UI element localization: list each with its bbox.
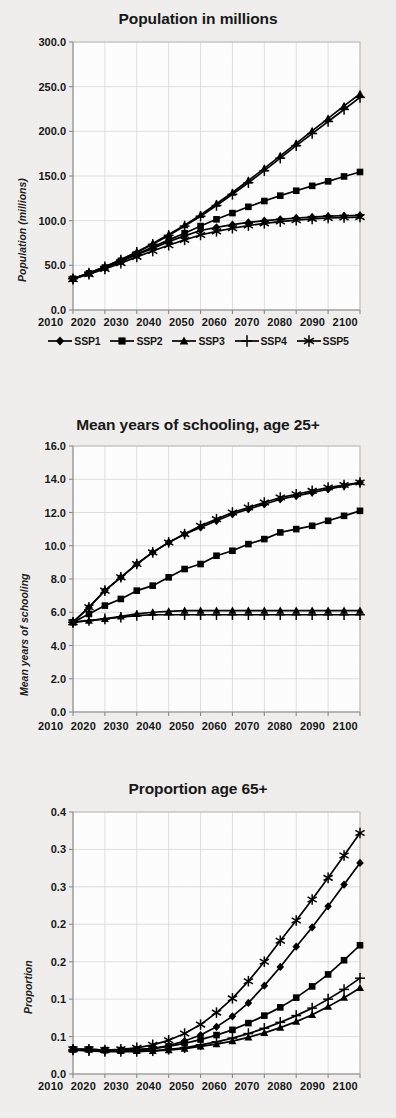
x-axis-ticklabel: 2070 bbox=[234, 1080, 259, 1092]
svg-text:0.1: 0.1 bbox=[51, 1031, 66, 1043]
svg-text:100.0: 100.0 bbox=[38, 215, 66, 227]
legend-label: SSP3 bbox=[198, 335, 224, 347]
plus-marker-icon bbox=[234, 334, 260, 348]
x-axis-ticklabels-population: 2010202020302040205020602070208020902100 bbox=[38, 316, 358, 328]
chart-title-proportion: Proportion age 65+ bbox=[0, 760, 396, 798]
y-axis-label-population: Population (millions) bbox=[16, 178, 28, 282]
svg-text:8.0: 8.0 bbox=[51, 573, 66, 585]
square-marker-icon bbox=[109, 334, 135, 348]
svg-text:0.2: 0.2 bbox=[51, 918, 66, 930]
svg-text:0.3: 0.3 bbox=[51, 843, 66, 855]
x-axis-ticklabel: 2100 bbox=[333, 316, 358, 328]
x-axis-ticklabel: 2010 bbox=[38, 720, 63, 732]
x-axis-ticklabel: 2070 bbox=[234, 720, 259, 732]
x-axis-ticklabel: 2080 bbox=[267, 316, 292, 328]
legend-label: SSP5 bbox=[323, 335, 349, 347]
x-axis-ticklabel: 2100 bbox=[333, 1080, 358, 1092]
x-axis-ticklabel: 2020 bbox=[71, 316, 96, 328]
svg-text:14.0: 14.0 bbox=[45, 473, 66, 485]
x-axis-ticklabel: 2100 bbox=[333, 720, 358, 732]
legend-label: SSP1 bbox=[74, 335, 100, 347]
x-axis-ticklabels-schooling: 2010202020302040205020602070208020902100 bbox=[38, 720, 358, 732]
plot-area-proportion: Proportion 0.00.10.10.20.20.30.30.4 2010… bbox=[0, 798, 396, 1108]
x-axis-ticklabel: 2020 bbox=[71, 720, 96, 732]
legend: SSP1SSP2SSP3SSP4SSP5 bbox=[0, 330, 396, 352]
x-axis-ticklabel: 2090 bbox=[300, 1080, 325, 1092]
x-axis-ticklabel: 2030 bbox=[103, 1080, 128, 1092]
x-axis-ticklabel: 2040 bbox=[136, 720, 161, 732]
chart-panel-schooling: Mean years of schooling, age 25+ Mean ye… bbox=[0, 402, 396, 760]
chart-title-schooling: Mean years of schooling, age 25+ bbox=[0, 402, 396, 434]
legend-item-ssp4[interactable]: SSP4 bbox=[234, 334, 287, 348]
chart-title-population: Population in millions bbox=[0, 0, 396, 28]
x-axis-ticklabel: 2050 bbox=[169, 316, 194, 328]
triangle-marker-icon bbox=[171, 334, 197, 348]
plot-area-population: Population (millions) 0.050.0100.0150.02… bbox=[0, 28, 396, 346]
x-axis-ticklabel: 2020 bbox=[71, 1080, 96, 1092]
svg-text:0.3: 0.3 bbox=[51, 881, 66, 893]
svg-text:0.0: 0.0 bbox=[51, 706, 66, 718]
x-axis-ticklabel: 2010 bbox=[38, 316, 63, 328]
svg-text:250.0: 250.0 bbox=[38, 81, 66, 93]
y-axis-label-schooling: Mean years of schooling bbox=[18, 573, 30, 696]
svg-text:6.0: 6.0 bbox=[51, 606, 66, 618]
chart-panel-proportion: Proportion age 65+ Proportion 0.00.10.10… bbox=[0, 760, 396, 1118]
svg-text:50.0: 50.0 bbox=[45, 259, 66, 271]
svg-text:300.0: 300.0 bbox=[38, 36, 66, 48]
svg-text:0.0: 0.0 bbox=[51, 1068, 66, 1080]
legend-item-ssp3[interactable]: SSP3 bbox=[171, 334, 224, 348]
x-axis-ticklabel: 2070 bbox=[234, 316, 259, 328]
svg-text:2.0: 2.0 bbox=[51, 673, 66, 685]
svg-text:16.0: 16.0 bbox=[45, 440, 66, 452]
x-axis-ticklabel: 2060 bbox=[202, 316, 227, 328]
plot-area-schooling: Mean years of schooling 0.02.04.06.08.01… bbox=[0, 434, 396, 746]
x-axis-ticklabel: 2030 bbox=[103, 720, 128, 732]
x-axis-ticklabel: 2010 bbox=[38, 1080, 63, 1092]
x-axis-ticklabel: 2090 bbox=[300, 316, 325, 328]
x-axis-ticklabel: 2060 bbox=[202, 720, 227, 732]
x-axis-ticklabel: 2050 bbox=[169, 1080, 194, 1092]
svg-text:0.2: 0.2 bbox=[51, 956, 66, 968]
svg-text:200.0: 200.0 bbox=[38, 125, 66, 137]
plot-svg-proportion: 0.00.10.10.20.20.30.30.4 bbox=[0, 798, 396, 1108]
legend-label: SSP4 bbox=[261, 335, 287, 347]
chart-panel-population: Population in millions Population (milli… bbox=[0, 0, 396, 402]
x-axis-ticklabel: 2040 bbox=[136, 316, 161, 328]
legend-item-ssp1[interactable]: SSP1 bbox=[47, 334, 100, 348]
svg-text:10.0: 10.0 bbox=[45, 540, 66, 552]
x-axis-ticklabel: 2050 bbox=[169, 720, 194, 732]
legend-item-ssp2[interactable]: SSP2 bbox=[109, 334, 162, 348]
x-axis-ticklabel: 2080 bbox=[267, 1080, 292, 1092]
asterisk-marker-icon bbox=[296, 334, 322, 348]
svg-text:150.0: 150.0 bbox=[38, 170, 66, 182]
svg-text:0.0: 0.0 bbox=[51, 304, 66, 316]
x-axis-ticklabel: 2060 bbox=[202, 1080, 227, 1092]
svg-text:4.0: 4.0 bbox=[51, 640, 66, 652]
x-axis-ticklabels-proportion: 2010202020302040205020602070208020902100 bbox=[38, 1080, 358, 1092]
plot-svg-schooling: 0.02.04.06.08.010.012.014.016.0 bbox=[0, 434, 396, 746]
y-axis-label-proportion: Proportion bbox=[22, 960, 34, 1014]
svg-text:0.1: 0.1 bbox=[51, 993, 66, 1005]
x-axis-ticklabel: 2090 bbox=[300, 720, 325, 732]
x-axis-ticklabel: 2040 bbox=[136, 1080, 161, 1092]
legend-label: SSP2 bbox=[136, 335, 162, 347]
x-axis-ticklabel: 2080 bbox=[267, 720, 292, 732]
x-axis-ticklabel: 2030 bbox=[103, 316, 128, 328]
diamond-marker-icon bbox=[47, 334, 73, 348]
svg-text:12.0: 12.0 bbox=[45, 507, 66, 519]
plot-svg-population: 0.050.0100.0150.0200.0250.0300.0 bbox=[0, 28, 396, 346]
svg-text:0.4: 0.4 bbox=[51, 806, 67, 818]
legend-item-ssp5[interactable]: SSP5 bbox=[296, 334, 349, 348]
